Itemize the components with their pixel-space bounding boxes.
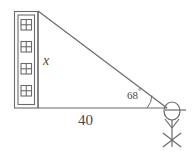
triangle-hypotenuse-line-of-sight (38, 11, 167, 108)
window-1 (21, 20, 32, 31)
angle-measure-label: 68° (127, 88, 141, 101)
angle-arc (147, 96, 152, 109)
figure-svg (0, 0, 194, 161)
geometry-diagram: x 40 68° (0, 0, 194, 161)
stick-figure-observer (163, 102, 186, 147)
window-4 (21, 86, 32, 97)
degree-symbol: ° (138, 87, 141, 96)
base-side-label: 40 (78, 113, 93, 128)
window-3 (21, 64, 32, 75)
triangle-group (38, 11, 167, 108)
window-2 (21, 42, 32, 53)
angle-value: 68 (127, 89, 138, 101)
building-group (15, 12, 39, 109)
stick-figure-head (164, 102, 180, 120)
height-side-label: x (43, 54, 49, 68)
